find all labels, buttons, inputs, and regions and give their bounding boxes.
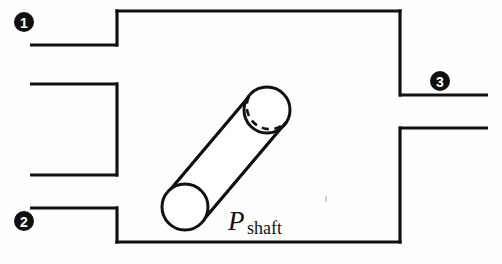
stream-marker-2-number: 2: [20, 214, 28, 230]
shaft-near-face: [162, 184, 208, 230]
shaft-power-symbol: P: [227, 206, 245, 236]
shaft-power-label: P shaft: [227, 206, 282, 238]
control-volume-schematic: P shaft 1 2 3: [0, 0, 502, 264]
rotating-shaft: [162, 87, 290, 230]
stream-marker-1: 1: [14, 12, 34, 32]
stream-marker-2: 2: [14, 211, 34, 231]
stream-marker-3-number: 3: [436, 74, 444, 90]
stream-marker-1-number: 1: [20, 15, 28, 31]
thermodynamics-figure: P shaft 1 2 3: [0, 0, 502, 264]
shaft-power-subscript: shaft: [247, 218, 282, 238]
stream-marker-3: 3: [430, 71, 450, 91]
scan-artifact: [325, 196, 327, 202]
